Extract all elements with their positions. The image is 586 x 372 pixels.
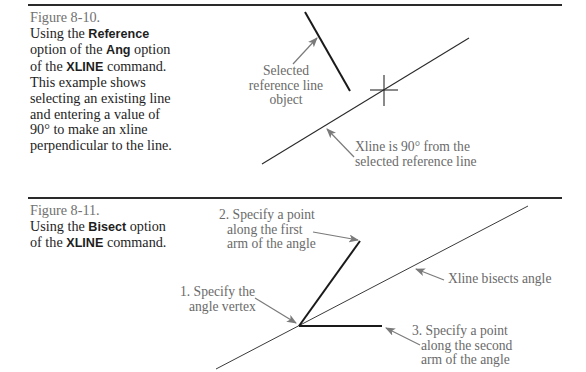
label-line: 3. Specify a point bbox=[412, 324, 512, 339]
label-step2: 2. Specify a point along the first arm o… bbox=[219, 208, 316, 252]
first-arm bbox=[299, 241, 360, 326]
label-line: along the first bbox=[219, 223, 316, 238]
leader-arrow-step2 bbox=[313, 232, 358, 240]
label-step1: 1. Specify the angle vertex bbox=[180, 285, 256, 314]
label-line: Selected bbox=[246, 64, 326, 79]
label-line: 1. Specify the bbox=[180, 285, 256, 300]
label-xline-90: Xline is 90° from the selected reference… bbox=[355, 140, 477, 169]
label-step3: 3. Specify a point along the second arm … bbox=[412, 324, 512, 368]
label-line: along the second bbox=[412, 339, 512, 354]
diagram-drawing bbox=[0, 0, 586, 372]
label-line: Xline bisects angle bbox=[448, 272, 551, 287]
leader-arrow-xline bbox=[327, 129, 354, 157]
label-line: reference line bbox=[246, 79, 326, 94]
label-line: selected reference line bbox=[355, 155, 477, 170]
label-line: arm of the angle bbox=[412, 353, 512, 368]
leader-arrow-step1 bbox=[255, 298, 296, 323]
label-bisect: Xline bisects angle bbox=[448, 272, 551, 287]
label-line: object bbox=[246, 93, 326, 108]
leader-arrow-reference bbox=[293, 38, 317, 64]
label-line: arm of the angle bbox=[219, 237, 316, 252]
label-line: Xline is 90° from the bbox=[355, 140, 477, 155]
label-selected-reference: Selected reference line object bbox=[246, 64, 326, 108]
label-line: angle vertex bbox=[180, 300, 256, 315]
leader-arrow-bisect bbox=[416, 269, 444, 280]
label-line: 2. Specify a point bbox=[219, 208, 316, 223]
crosshair-icon bbox=[370, 75, 398, 106]
